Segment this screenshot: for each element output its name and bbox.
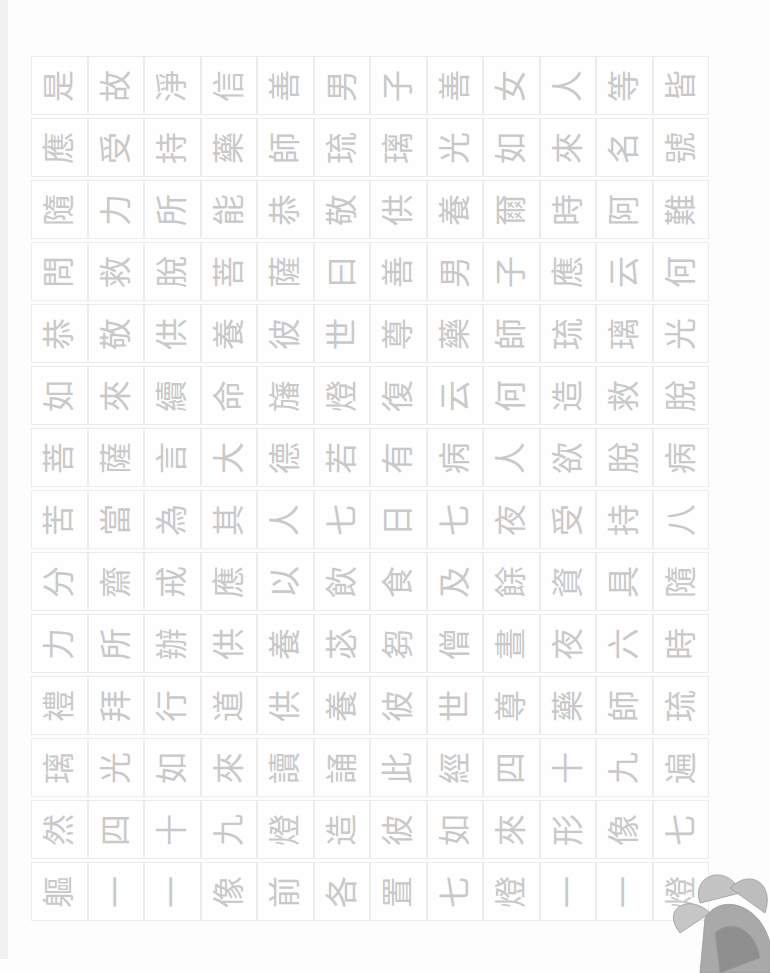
practice-cell: 尊 <box>370 304 427 363</box>
practice-cell: 薩 <box>257 242 314 301</box>
character-glyph: 八 <box>665 504 697 536</box>
character-glyph: 藥 <box>552 690 584 722</box>
character-glyph: 各 <box>326 876 358 908</box>
practice-cell: 名 <box>596 118 653 177</box>
practice-cell: 藥 <box>427 304 484 363</box>
practice-cell: 一 <box>144 862 201 921</box>
character-glyph: 淨 <box>156 70 188 102</box>
practice-cell: 十 <box>540 738 597 797</box>
character-glyph: 及 <box>439 566 471 598</box>
practice-cell: 具 <box>596 552 653 611</box>
practice-cell: 云 <box>427 366 484 425</box>
practice-cell: 禮 <box>31 676 88 735</box>
practice-cell: 男 <box>427 242 484 301</box>
character-glyph: 當 <box>100 504 132 536</box>
character-glyph: 信 <box>213 70 245 102</box>
practice-cell: 拜 <box>88 676 145 735</box>
character-glyph: 藥 <box>213 132 245 164</box>
character-glyph: 光 <box>665 318 697 350</box>
practice-cell: 七 <box>427 862 484 921</box>
practice-cell: 苦 <box>31 490 88 549</box>
practice-cell: 養 <box>201 304 258 363</box>
character-glyph: 一 <box>156 876 188 908</box>
character-glyph: 號 <box>665 132 697 164</box>
character-glyph: 養 <box>326 690 358 722</box>
practice-cell: 彼 <box>370 676 427 735</box>
practice-cell: 齋 <box>88 552 145 611</box>
character-glyph: 若 <box>326 442 358 474</box>
practice-cell: 何 <box>653 242 710 301</box>
practice-cell: 人 <box>540 56 597 115</box>
character-glyph: 爾 <box>495 194 527 226</box>
practice-cell: 七 <box>653 800 710 859</box>
character-glyph: 時 <box>665 628 697 660</box>
character-glyph: 言 <box>156 442 188 474</box>
character-glyph: 受 <box>100 132 132 164</box>
character-glyph: 九 <box>213 814 245 846</box>
practice-cell: 燈 <box>314 366 371 425</box>
character-glyph: 云 <box>608 256 640 288</box>
practice-cell: 藥 <box>201 118 258 177</box>
practice-cell: 命 <box>201 366 258 425</box>
character-glyph: 男 <box>326 70 358 102</box>
practice-cell: 應 <box>540 242 597 301</box>
character-glyph: 力 <box>100 194 132 226</box>
practice-cell: 旛 <box>257 366 314 425</box>
character-glyph: 云 <box>439 380 471 412</box>
calligraphy-practice-grid: 是故淨信善男子善女人等皆應受持藥師琉璃光如來名號隨力所能恭敬供養爾時阿難問救脫菩… <box>31 56 709 921</box>
practice-cell: 敬 <box>314 180 371 239</box>
character-glyph: 師 <box>608 690 640 722</box>
character-glyph: 飲 <box>326 566 358 598</box>
practice-cell: 尊 <box>483 676 540 735</box>
practice-cell: 淨 <box>144 56 201 115</box>
practice-cell: 琉 <box>540 304 597 363</box>
character-glyph: 日 <box>382 504 414 536</box>
character-glyph: 持 <box>608 504 640 536</box>
character-glyph: 病 <box>665 442 697 474</box>
character-glyph: 軀 <box>43 876 75 908</box>
practice-cell: 號 <box>653 118 710 177</box>
practice-cell: 璃 <box>370 118 427 177</box>
character-glyph: 供 <box>269 690 301 722</box>
character-glyph: 子 <box>382 70 414 102</box>
character-glyph: 道 <box>213 690 245 722</box>
practice-cell: 餘 <box>483 552 540 611</box>
practice-cell: 有 <box>370 428 427 487</box>
character-glyph: 燈 <box>326 380 358 412</box>
practice-cell: 芻 <box>370 614 427 673</box>
character-glyph: 有 <box>382 442 414 474</box>
character-glyph: 人 <box>552 70 584 102</box>
practice-cell: 持 <box>596 490 653 549</box>
character-glyph: 燈 <box>495 876 527 908</box>
practice-cell: 力 <box>31 614 88 673</box>
character-glyph: 受 <box>552 504 584 536</box>
character-glyph: 九 <box>608 752 640 784</box>
practice-cell: 供 <box>144 304 201 363</box>
practice-cell: 子 <box>370 56 427 115</box>
character-glyph: 琉 <box>665 690 697 722</box>
practice-cell: 及 <box>427 552 484 611</box>
character-glyph: 如 <box>156 752 188 784</box>
practice-cell: 軀 <box>31 862 88 921</box>
practice-cell: 夜 <box>483 490 540 549</box>
practice-cell: 九 <box>596 738 653 797</box>
character-glyph: 禮 <box>43 690 75 722</box>
practice-cell: 苾 <box>314 614 371 673</box>
practice-cell: 男 <box>314 56 371 115</box>
practice-cell: 爾 <box>483 180 540 239</box>
character-glyph: 力 <box>43 628 75 660</box>
character-glyph: 齋 <box>100 566 132 598</box>
practice-cell: 各 <box>314 862 371 921</box>
character-glyph: 供 <box>382 194 414 226</box>
character-glyph: 行 <box>156 690 188 722</box>
character-glyph: 璃 <box>608 318 640 350</box>
character-glyph: 尊 <box>382 318 414 350</box>
character-glyph: 七 <box>665 814 697 846</box>
practice-cell: 道 <box>201 676 258 735</box>
practice-cell: 救 <box>596 366 653 425</box>
character-glyph: 供 <box>156 318 188 350</box>
practice-cell: 恭 <box>257 180 314 239</box>
practice-cell: 然 <box>31 800 88 859</box>
character-glyph: 置 <box>382 876 414 908</box>
practice-cell: 彼 <box>370 800 427 859</box>
